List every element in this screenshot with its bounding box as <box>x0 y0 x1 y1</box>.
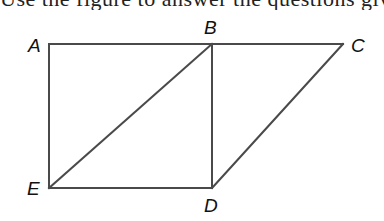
vertex-label-b: B <box>204 17 217 38</box>
diagram-canvas: Use the figure to answer the questions g… <box>0 0 384 221</box>
vertex-label-c: C <box>351 35 365 56</box>
segment-cd <box>212 44 343 188</box>
segment-eb <box>49 44 212 188</box>
vertex-label-e: E <box>27 178 40 199</box>
vertex-labels: ABCDE <box>27 17 365 216</box>
geometry-figure: ABCDE <box>0 0 384 221</box>
vertex-label-d: D <box>204 195 218 216</box>
figure-edges <box>49 44 343 188</box>
vertex-label-a: A <box>27 35 41 56</box>
